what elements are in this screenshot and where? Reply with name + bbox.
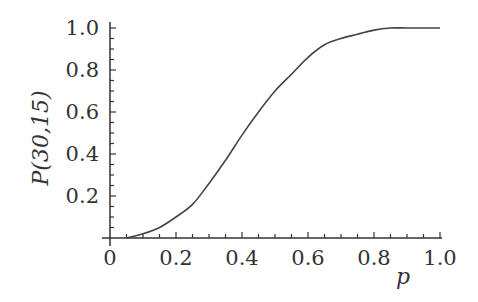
x-tick-label: 0 xyxy=(103,246,116,270)
x-tick-label: 0.6 xyxy=(291,246,324,270)
y-tick-label: 0.6 xyxy=(66,100,99,124)
chart: 00.20.40.60.81.00.20.40.60.81.0 p P(30,1… xyxy=(0,0,478,302)
x-tick-label: 1.0 xyxy=(423,246,456,270)
y-axis-label: P(30,15) xyxy=(28,91,53,187)
x-tick-label: 0.4 xyxy=(225,246,258,270)
y-tick-label: 0.8 xyxy=(66,58,99,82)
ticks xyxy=(110,28,440,238)
data-line xyxy=(127,28,441,238)
y-tick-label: 1.0 xyxy=(66,16,99,40)
axes xyxy=(102,22,442,246)
y-tick-label: 0.2 xyxy=(66,184,99,208)
x-tick-label: 0.8 xyxy=(357,246,390,270)
tick-labels: 00.20.40.60.81.00.20.40.60.81.0 xyxy=(66,16,457,270)
x-axis-label: p xyxy=(396,264,410,289)
y-tick-label: 0.4 xyxy=(66,142,99,166)
x-tick-label: 0.2 xyxy=(159,246,192,270)
